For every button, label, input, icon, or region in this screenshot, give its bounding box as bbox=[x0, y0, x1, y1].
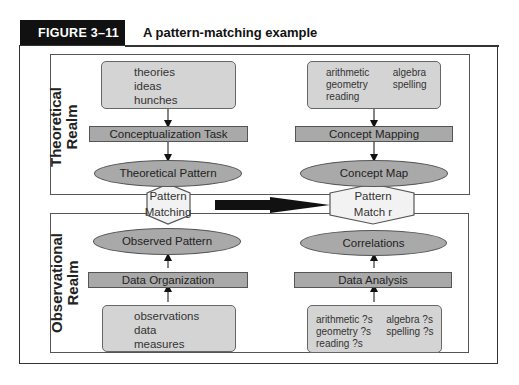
observations-box: observations data measures bbox=[102, 305, 236, 352]
subjects-box: arithmetic algebra geometry spelling rea… bbox=[307, 61, 441, 109]
algebra-scores-item: algebra ?s bbox=[386, 314, 441, 326]
data-item: data bbox=[134, 323, 235, 337]
pattern-matching-line1: Pattern bbox=[138, 188, 198, 204]
data-organization-label: Data Organization bbox=[122, 274, 215, 286]
subject-scores-box: arithmetic ?s algebra ?s geometry ?s spe… bbox=[307, 305, 442, 353]
correlations-label: Correlations bbox=[343, 237, 405, 249]
observed-pattern-label: Observed Pattern bbox=[122, 235, 212, 247]
matching-arrow bbox=[215, 197, 330, 213]
conceptualization-task-box: Conceptualization Task bbox=[89, 126, 248, 142]
observed-pattern-ellipse: Observed Pattern bbox=[93, 228, 241, 255]
pattern-match-r-text: Pattern Match r bbox=[342, 188, 404, 220]
arithmetic-scores-item: arithmetic ?s bbox=[316, 314, 380, 326]
concept-map-ellipse: Concept Map bbox=[300, 160, 448, 187]
measures-item: measures bbox=[134, 337, 235, 351]
ideas-item: ideas bbox=[134, 79, 235, 93]
reading-scores-item: reading ?s bbox=[316, 338, 380, 350]
pattern-matching-line2: Matching bbox=[138, 204, 198, 220]
arithmetic-item: arithmetic bbox=[326, 67, 383, 79]
reading-item: reading bbox=[326, 91, 383, 103]
correlations-ellipse: Correlations bbox=[300, 230, 447, 256]
hunches-item: hunches bbox=[134, 93, 235, 107]
concept-mapping-box: Concept Mapping bbox=[295, 126, 453, 142]
theoretical-pattern-ellipse: Theoretical Pattern bbox=[94, 160, 242, 187]
data-organization-box: Data Organization bbox=[88, 272, 248, 288]
pattern-matching-text: Pattern Matching bbox=[138, 188, 198, 220]
spelling-item: spelling bbox=[393, 79, 440, 91]
spelling-scores-item: spelling ?s bbox=[386, 326, 441, 338]
theories-item: theories bbox=[134, 65, 235, 79]
algebra-item: algebra bbox=[393, 67, 440, 79]
theories-box: theories ideas hunches bbox=[101, 61, 236, 109]
conceptualization-task-label: Conceptualization Task bbox=[109, 128, 227, 140]
theoretical-pattern-label: Theoretical Pattern bbox=[119, 167, 216, 179]
pattern-match-r-line1: Pattern bbox=[342, 188, 404, 204]
data-analysis-label: Data Analysis bbox=[338, 274, 408, 286]
pattern-match-r-line2: Match r bbox=[342, 204, 404, 220]
concept-mapping-label: Concept Mapping bbox=[329, 128, 419, 140]
observations-item: observations bbox=[134, 309, 235, 323]
geometry-scores-item: geometry ?s bbox=[316, 326, 380, 338]
data-analysis-box: Data Analysis bbox=[294, 272, 452, 288]
concept-map-label: Concept Map bbox=[340, 167, 408, 179]
geometry-item: geometry bbox=[326, 79, 383, 91]
